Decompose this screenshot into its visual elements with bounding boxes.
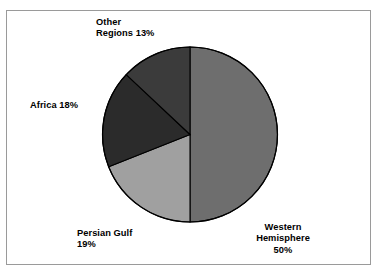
pie-slices xyxy=(102,47,277,222)
pie-label-other-regions: Other Regions 13% xyxy=(96,17,154,40)
pie-label-western-hemisphere: Western Hemisphere 50% xyxy=(240,222,326,256)
pie-label-persian-gulf: Persian Gulf 19% xyxy=(77,228,132,251)
pie-slice-western-hemisphere[interactable] xyxy=(190,47,277,222)
pie-label-africa: Africa 18% xyxy=(30,100,78,111)
